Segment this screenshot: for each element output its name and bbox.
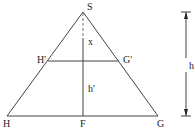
label-G-prime: G' [123,54,132,65]
arrow-down-icon [184,109,188,116]
triangle-diagram: S H F G H' G' x h' h [0,0,195,129]
label-S: S [87,1,93,12]
label-h: h [189,60,194,71]
arrow-up-icon [184,12,188,19]
edge-SG [83,12,158,116]
label-x: x [88,36,93,47]
label-F: F [80,118,86,129]
label-G: G [157,118,164,129]
label-H-prime: H' [37,54,46,65]
label-H: H [3,118,10,129]
label-h-prime: h' [88,83,95,94]
